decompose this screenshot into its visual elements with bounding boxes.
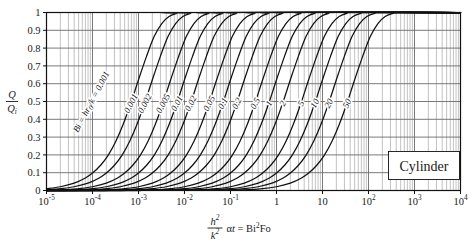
y-tick-label-9: 0.9 bbox=[27, 25, 40, 36]
y-tick-label-6: 0.6 bbox=[27, 78, 40, 89]
x-axis-title-expression: αt = Bi2Fo bbox=[227, 222, 271, 234]
y-tick-label-3: 0.3 bbox=[27, 132, 40, 143]
x-tick-label-3: 10-2 bbox=[176, 194, 193, 206]
x-tick-label-8: 103 bbox=[407, 194, 422, 206]
y-tick-label-7: 0.7 bbox=[27, 61, 40, 72]
cylinder-heat-transfer-chart: 0.0010.0010.0020.0020.0050.0050.010.010.… bbox=[0, 0, 473, 250]
y-axis-title-denominator: Qi bbox=[7, 103, 17, 116]
y-tick-label-8: 0.8 bbox=[27, 43, 40, 54]
y-tick-label-1: 0.1 bbox=[27, 167, 40, 178]
x-axis-title-denominator: k2 bbox=[211, 228, 220, 240]
chart-figure: 0.0010.0010.0020.0020.0050.0050.010.010.… bbox=[0, 0, 473, 250]
y-axis-title-numerator: Q bbox=[8, 89, 16, 100]
x-tick-label-9: 104 bbox=[453, 194, 468, 206]
x-tick-label-6: 10 bbox=[317, 196, 328, 207]
y-tick-label-4: 0.4 bbox=[27, 114, 41, 125]
x-axis-title-numerator: h2 bbox=[211, 214, 220, 226]
y-tick-label-10: 1 bbox=[35, 7, 40, 18]
x-tick-label-4: 10-1 bbox=[222, 194, 239, 206]
x-tick-label-5: 1 bbox=[274, 196, 279, 207]
y-tick-label-5: 0.5 bbox=[27, 96, 40, 107]
x-tick-label-1: 10-4 bbox=[84, 194, 101, 206]
x-tick-label-7: 102 bbox=[361, 194, 376, 206]
x-tick-label-2: 10-3 bbox=[130, 194, 147, 206]
y-tick-label-2: 0.2 bbox=[27, 150, 40, 161]
cylinder-annotation-label: Cylinder bbox=[400, 159, 449, 174]
y-tick-label-0: 0 bbox=[35, 185, 40, 196]
x-tick-label-0: 10-5 bbox=[38, 194, 55, 206]
